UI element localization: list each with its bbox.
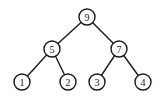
node-label: 4 [141,77,146,88]
tree-node-9: 9 [79,9,95,25]
tree-node-7: 7 [111,41,127,57]
tree-node-5: 5 [44,41,60,57]
tree-node-3: 3 [89,74,105,90]
node-label: 1 [20,77,25,88]
node-label: 3 [95,77,100,88]
tree-node-2: 2 [60,74,76,90]
tree-node-4: 4 [135,74,151,90]
node-label: 2 [66,77,71,88]
node-label: 5 [50,44,55,55]
node-label: 7 [117,44,122,55]
nodes: 9571234 [14,9,151,90]
node-label: 9 [85,12,90,23]
tree-node-1: 1 [14,74,30,90]
binary-tree-diagram: 9571234 [0,0,160,101]
